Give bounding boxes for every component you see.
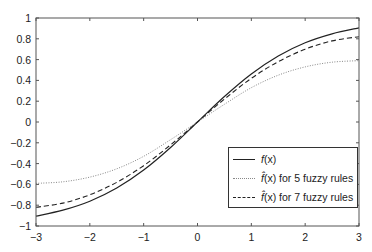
solid-line-swatch-icon bbox=[233, 159, 255, 160]
legend-label: (x) bbox=[264, 153, 276, 165]
y-tick-label: −0.6 bbox=[10, 178, 31, 190]
x-tick-label: −3 bbox=[30, 231, 42, 243]
x-tick-label: 3 bbox=[356, 231, 362, 243]
y-tick-label: 0.6 bbox=[16, 54, 31, 66]
axis-ticks: −3−2−10123−1−0.8−0.6−0.4−0.200.20.40.60.… bbox=[10, 12, 362, 243]
legend-item-f: f(x) bbox=[233, 151, 276, 167]
x-tick-label: −2 bbox=[84, 231, 96, 243]
legend-label: (x) for 5 fuzzy rules bbox=[264, 172, 353, 184]
y-tick-label: −0.2 bbox=[10, 137, 31, 149]
x-tick-label: 0 bbox=[195, 231, 201, 243]
chart-legend: f(x) f̂(x) for 5 fuzzy rules f̂(x) for 7… bbox=[228, 147, 358, 208]
x-tick-label: −1 bbox=[138, 231, 150, 243]
line-chart: −3−2−10123−1−0.8−0.6−0.4−0.200.20.40.60.… bbox=[0, 0, 372, 252]
legend-item-5-rules: f̂(x) for 5 fuzzy rules bbox=[233, 170, 353, 186]
y-tick-label: 0.8 bbox=[16, 33, 31, 45]
x-tick-label: 2 bbox=[302, 231, 308, 243]
dotted-line-swatch-icon bbox=[233, 178, 255, 179]
dashed-line-swatch-icon bbox=[233, 197, 255, 198]
x-tick-label: 1 bbox=[248, 231, 254, 243]
legend-item-7-rules: f̂(x) for 7 fuzzy rules bbox=[233, 189, 353, 205]
y-tick-label: −0.4 bbox=[10, 158, 31, 170]
y-tick-label: −1 bbox=[19, 220, 31, 232]
y-tick-label: −0.8 bbox=[10, 199, 31, 211]
legend-label: (x) for 7 fuzzy rules bbox=[264, 191, 353, 203]
y-tick-label: 0.4 bbox=[16, 74, 31, 86]
y-tick-label: 1 bbox=[25, 12, 31, 24]
y-tick-label: 0.2 bbox=[16, 95, 31, 107]
y-tick-label: 0 bbox=[25, 116, 31, 128]
